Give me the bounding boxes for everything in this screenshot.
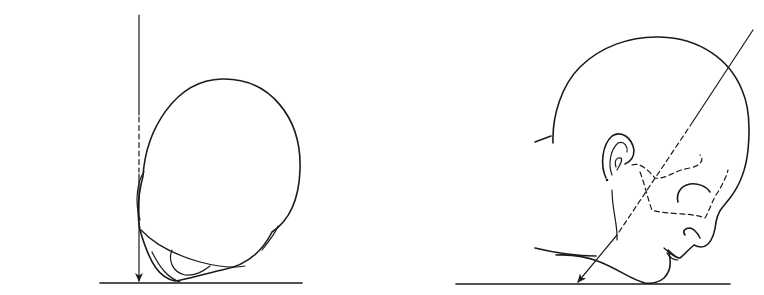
- maxilla-dashed-outline: [640, 170, 728, 218]
- head-profile: [553, 37, 749, 283]
- lips: [664, 248, 678, 260]
- jaw-line: [612, 190, 617, 240]
- eye-contour: [678, 184, 711, 202]
- ear: [603, 134, 634, 181]
- zygoma-dashed-outline: [632, 155, 702, 178]
- right-panel: [456, 30, 753, 284]
- head-outline-left: [138, 79, 300, 281]
- nostril: [684, 228, 700, 238]
- central-ray-angled: [578, 30, 753, 282]
- face-fold-1: [141, 230, 245, 267]
- positioning-diagram: [0, 0, 764, 295]
- diagram-canvas: [0, 0, 764, 295]
- left-panel: [100, 15, 302, 283]
- neck-back-line: [535, 136, 551, 142]
